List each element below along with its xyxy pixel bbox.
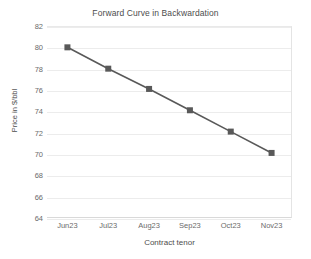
- data-point-marker: [146, 86, 152, 92]
- y-axis-tick-label: 78: [3, 64, 43, 73]
- data-point-marker: [187, 107, 193, 113]
- y-axis-tick-label: 66: [3, 192, 43, 201]
- x-axis-tick-label: Nov23: [242, 221, 302, 230]
- data-point-marker: [64, 44, 70, 50]
- series-polyline: [67, 47, 271, 153]
- chart-container: Forward Curve in Backwardation Price in …: [0, 0, 311, 259]
- chart-title: Forward Curve in Backwardation: [0, 8, 311, 18]
- x-axis-tick-labels: Jun23Jul23Aug23Sep23Oct23Nov23: [47, 221, 292, 235]
- y-axis-tick-label: 68: [3, 171, 43, 180]
- data-point-marker: [269, 150, 275, 156]
- y-axis-tick-label: 70: [3, 150, 43, 159]
- data-series-line: [47, 26, 292, 218]
- y-axis-tick-label: 80: [3, 43, 43, 52]
- y-axis-tick-labels: 82807876747270686664: [0, 26, 43, 218]
- gridline: [47, 219, 291, 220]
- y-axis-tick-label: 82: [3, 22, 43, 31]
- data-point-marker: [105, 66, 111, 72]
- data-point-marker: [228, 129, 234, 135]
- x-axis-title: Contract tenor: [47, 238, 292, 247]
- y-axis-tick-label: 74: [3, 107, 43, 116]
- y-axis-tick-label: 72: [3, 128, 43, 137]
- y-axis-tick-label: 76: [3, 86, 43, 95]
